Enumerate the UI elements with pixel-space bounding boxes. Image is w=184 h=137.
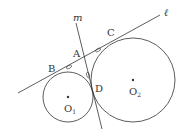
geometry-diagram: m ℓ A B C D O1 O2 xyxy=(0,0,184,137)
line-l xyxy=(18,15,160,93)
label-o1: O1 xyxy=(64,103,76,115)
line-m xyxy=(76,23,102,129)
label-b: B xyxy=(48,63,55,74)
tick-mark-ac xyxy=(95,47,101,52)
tick-mark-ab xyxy=(66,64,72,69)
label-a: A xyxy=(72,48,81,59)
center-dot-o1 xyxy=(67,96,69,98)
label-c: C xyxy=(107,27,115,38)
label-m: m xyxy=(73,12,82,23)
diagram-svg: m ℓ A B C D O1 O2 xyxy=(0,0,184,137)
label-o2: O2 xyxy=(129,86,141,98)
label-l: ℓ xyxy=(164,7,168,18)
center-dot-o2 xyxy=(132,79,134,81)
label-d: D xyxy=(95,83,103,94)
